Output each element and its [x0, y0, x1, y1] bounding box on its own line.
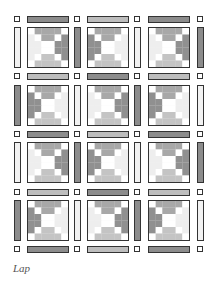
quilt-block — [27, 85, 69, 126]
cornerstone — [197, 16, 203, 22]
cornerstone — [197, 131, 203, 137]
horizontal-sashing — [27, 189, 69, 196]
horizontal-sashing — [27, 131, 69, 138]
vertical-sashing — [197, 142, 204, 183]
vertical-sashing — [74, 85, 81, 126]
vertical-sashing — [134, 27, 141, 68]
cornerstone — [74, 73, 80, 79]
quilt-block — [148, 142, 190, 183]
horizontal-sashing — [148, 16, 190, 23]
horizontal-sashing — [87, 73, 129, 80]
quilt-block — [148, 200, 190, 241]
quilt-size-caption: Lap — [13, 262, 30, 274]
cornerstone — [134, 73, 140, 79]
cornerstone — [14, 16, 20, 22]
cornerstone — [134, 246, 140, 252]
vertical-sashing — [134, 85, 141, 126]
cornerstone — [197, 73, 203, 79]
vertical-sashing — [197, 27, 204, 68]
horizontal-sashing — [87, 189, 129, 196]
vertical-sashing — [197, 200, 204, 241]
quilt-block — [27, 200, 69, 241]
horizontal-sashing — [27, 73, 69, 80]
quilt-diagram — [0, 0, 215, 260]
horizontal-sashing — [87, 246, 129, 253]
cornerstone — [74, 189, 80, 195]
horizontal-sashing — [148, 73, 190, 80]
cornerstone — [197, 246, 203, 252]
quilt-block — [27, 142, 69, 183]
vertical-sashing — [134, 142, 141, 183]
horizontal-sashing — [27, 16, 69, 23]
vertical-sashing — [14, 27, 21, 68]
horizontal-sashing — [148, 246, 190, 253]
vertical-sashing — [74, 200, 81, 241]
horizontal-sashing — [87, 16, 129, 23]
quilt-block — [87, 85, 129, 126]
vertical-sashing — [74, 142, 81, 183]
cornerstone — [14, 131, 20, 137]
vertical-sashing — [134, 200, 141, 241]
vertical-sashing — [14, 85, 21, 126]
cornerstone — [134, 131, 140, 137]
horizontal-sashing — [87, 131, 129, 138]
vertical-sashing — [14, 200, 21, 241]
quilt-block — [87, 200, 129, 241]
cornerstone — [14, 189, 20, 195]
quilt-block — [27, 27, 69, 68]
cornerstone — [197, 189, 203, 195]
quilt-block — [87, 27, 129, 68]
quilt-block — [148, 85, 190, 126]
horizontal-sashing — [27, 246, 69, 253]
cornerstone — [134, 189, 140, 195]
quilt-block — [148, 27, 190, 68]
vertical-sashing — [14, 142, 21, 183]
cornerstone — [74, 131, 80, 137]
quilt-block — [87, 142, 129, 183]
vertical-sashing — [197, 85, 204, 126]
horizontal-sashing — [148, 131, 190, 138]
horizontal-sashing — [148, 189, 190, 196]
cornerstone — [74, 246, 80, 252]
cornerstone — [74, 16, 80, 22]
cornerstone — [14, 246, 20, 252]
cornerstone — [14, 73, 20, 79]
vertical-sashing — [74, 27, 81, 68]
cornerstone — [134, 16, 140, 22]
